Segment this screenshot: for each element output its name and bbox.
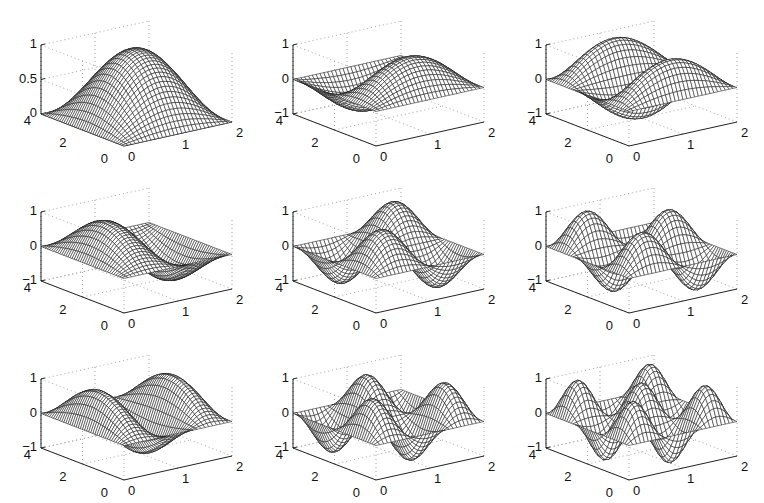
x-tick-1: 1 bbox=[687, 305, 694, 318]
x-tick-0: 0 bbox=[633, 484, 640, 497]
x-tick-1: 1 bbox=[182, 472, 189, 485]
mesh-surface bbox=[546, 37, 737, 118]
x-tick-2: 2 bbox=[236, 460, 243, 473]
plot-canvas bbox=[252, 0, 506, 168]
plot-canvas bbox=[505, 167, 759, 335]
surface-plot-n2-m2: −101024012 bbox=[252, 167, 506, 335]
x-tick-1: 1 bbox=[434, 472, 441, 485]
x-tick-0: 0 bbox=[128, 150, 135, 163]
z-tick-2: 1 bbox=[282, 37, 289, 50]
y-tick-2: 4 bbox=[24, 281, 31, 294]
surface-plot-n2-m3: −101024012 bbox=[505, 167, 759, 335]
y-tick-0: 0 bbox=[101, 319, 108, 332]
z-tick-2: 1 bbox=[535, 371, 542, 384]
z-tick-1: 0.5 bbox=[19, 72, 37, 85]
x-tick-0: 0 bbox=[380, 150, 387, 163]
x-tick-2: 2 bbox=[488, 126, 495, 139]
x-tick-2: 2 bbox=[488, 460, 495, 473]
mesh-surface bbox=[41, 221, 232, 281]
x-tick-2: 2 bbox=[741, 126, 748, 139]
mesh-surface bbox=[293, 202, 484, 288]
x-tick-1: 1 bbox=[434, 305, 441, 318]
z-tick-2: 1 bbox=[30, 204, 37, 217]
y-tick-0: 0 bbox=[606, 319, 613, 332]
y-tick-0: 0 bbox=[606, 152, 613, 165]
y-tick-0: 0 bbox=[353, 319, 360, 332]
x-tick-0: 0 bbox=[380, 484, 387, 497]
x-tick-2: 2 bbox=[741, 460, 748, 473]
y-tick-2: 4 bbox=[276, 114, 283, 127]
y-tick-1: 2 bbox=[311, 470, 318, 483]
surface-plot-n1-m3: −101024012 bbox=[505, 0, 759, 168]
z-tick-1: 0 bbox=[30, 406, 37, 419]
mesh-surface bbox=[41, 48, 232, 146]
x-tick-1: 1 bbox=[687, 472, 694, 485]
x-tick-2: 2 bbox=[236, 293, 243, 306]
z-tick-2: 1 bbox=[30, 371, 37, 384]
y-tick-0: 0 bbox=[353, 486, 360, 499]
plot-canvas bbox=[0, 0, 254, 168]
y-tick-0: 0 bbox=[101, 152, 108, 165]
z-tick-1: 0 bbox=[535, 72, 542, 85]
y-tick-2: 4 bbox=[529, 114, 536, 127]
x-tick-0: 0 bbox=[380, 317, 387, 330]
plot-canvas bbox=[252, 167, 506, 335]
y-tick-2: 4 bbox=[529, 281, 536, 294]
x-tick-1: 1 bbox=[434, 138, 441, 151]
z-tick-2: 1 bbox=[282, 204, 289, 217]
z-tick-1: 0 bbox=[535, 239, 542, 252]
y-tick-2: 4 bbox=[276, 281, 283, 294]
z-tick-2: 1 bbox=[282, 371, 289, 384]
y-tick-1: 2 bbox=[311, 136, 318, 149]
z-tick-1: 0 bbox=[535, 406, 542, 419]
mesh-surface bbox=[293, 375, 484, 461]
mesh-surface bbox=[546, 365, 737, 463]
y-tick-1: 2 bbox=[311, 303, 318, 316]
z-tick-1: 0 bbox=[282, 239, 289, 252]
plot-canvas bbox=[252, 334, 506, 502]
plot-canvas bbox=[505, 0, 759, 168]
y-tick-0: 0 bbox=[353, 152, 360, 165]
z-tick-1: 0 bbox=[282, 406, 289, 419]
y-tick-2: 4 bbox=[529, 448, 536, 461]
x-tick-2: 2 bbox=[488, 293, 495, 306]
plot-canvas bbox=[0, 334, 254, 502]
z-tick-1: 0 bbox=[282, 72, 289, 85]
z-tick-2: 1 bbox=[535, 204, 542, 217]
x-tick-0: 0 bbox=[128, 484, 135, 497]
mesh-surface bbox=[293, 56, 484, 112]
surface-plot-n3-m2: −101024012 bbox=[252, 334, 506, 502]
y-tick-1: 2 bbox=[564, 136, 571, 149]
x-tick-1: 1 bbox=[182, 138, 189, 151]
surface-plot-n1-m1: 00.51024012 bbox=[0, 0, 254, 168]
surface-plot-n2-m1: −101024012 bbox=[0, 167, 254, 335]
y-tick-2: 4 bbox=[276, 448, 283, 461]
y-tick-1: 2 bbox=[564, 470, 571, 483]
x-tick-2: 2 bbox=[236, 126, 243, 139]
y-tick-2: 4 bbox=[24, 448, 31, 461]
z-tick-1: 0 bbox=[30, 239, 37, 252]
x-tick-1: 1 bbox=[182, 305, 189, 318]
x-tick-0: 0 bbox=[633, 317, 640, 330]
surface-plot-n1-m2: −101024012 bbox=[252, 0, 506, 168]
y-tick-1: 2 bbox=[59, 303, 66, 316]
plot-canvas bbox=[505, 334, 759, 502]
surface-plot-n3-m1: −101024012 bbox=[0, 334, 254, 502]
surface-plot-n3-m3: −101024012 bbox=[505, 334, 759, 502]
x-tick-0: 0 bbox=[128, 317, 135, 330]
y-tick-1: 2 bbox=[564, 303, 571, 316]
y-tick-0: 0 bbox=[606, 486, 613, 499]
x-tick-0: 0 bbox=[633, 150, 640, 163]
y-tick-1: 2 bbox=[59, 136, 66, 149]
y-tick-0: 0 bbox=[101, 486, 108, 499]
y-tick-2: 4 bbox=[24, 114, 31, 127]
z-tick-2: 1 bbox=[535, 37, 542, 50]
z-tick-2: 1 bbox=[30, 37, 37, 50]
figure: 00.51024012−101024012−101024012−10102401… bbox=[0, 0, 764, 503]
y-tick-1: 2 bbox=[59, 470, 66, 483]
mesh-surface bbox=[546, 210, 737, 291]
mesh-surface bbox=[41, 374, 232, 454]
x-tick-2: 2 bbox=[741, 293, 748, 306]
plot-canvas bbox=[0, 167, 254, 335]
x-tick-1: 1 bbox=[687, 138, 694, 151]
